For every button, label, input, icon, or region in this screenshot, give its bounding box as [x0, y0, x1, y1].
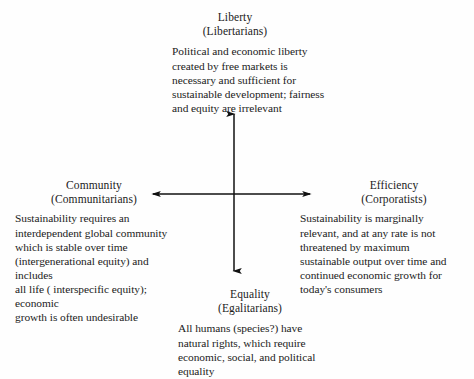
quadrant-right-description: Sustainability is marginally relevant, a… [296, 211, 474, 296]
quadrant-right-heading-subtitle: (Corporatists) [314, 192, 474, 206]
quadrant-top-heading: Liberty (Libertarians) [130, 10, 340, 38]
quadrant-top-heading-title: Liberty [218, 11, 253, 23]
quadrant-left-heading-subtitle: (Communitarians) [8, 192, 180, 206]
quadrant-left-heading-title: Community [66, 179, 122, 191]
quadrant-top-heading-subtitle: (Libertarians) [130, 24, 340, 38]
quadrant-right-heading-title: Efficiency [370, 179, 419, 191]
quadrant-left-heading: Community (Communitarians) [4, 178, 180, 206]
quadrant-bottom-description: All humans (species?) have natural right… [150, 321, 350, 377]
quadrant-top-description: Political and economic liberty created b… [130, 44, 340, 114]
quadrant-bottom-equality: Equality (Egalitarians) All humans (spec… [150, 287, 350, 378]
quadrant-diagram: Liberty (Libertarians) Political and eco… [0, 0, 474, 379]
quadrant-top-liberty: Liberty (Libertarians) Political and eco… [130, 10, 340, 115]
quadrant-right-heading: Efficiency (Corporatists) [296, 178, 474, 206]
quadrant-bottom-heading-title: Equality [230, 288, 270, 300]
quadrant-right-efficiency: Efficiency (Corporatists) Sustainability… [296, 178, 474, 296]
quadrant-bottom-heading-subtitle: (Egalitarians) [150, 301, 350, 315]
quadrant-bottom-heading: Equality (Egalitarians) [150, 287, 350, 315]
